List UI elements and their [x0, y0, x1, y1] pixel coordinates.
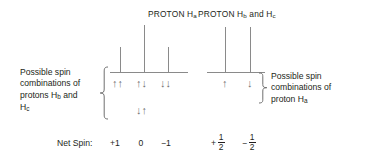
- right-caption-line-2: combinations of: [271, 82, 363, 93]
- left-caption-subscript-c: c: [26, 105, 29, 112]
- minus-half-sign: −: [242, 138, 247, 148]
- right-peak-right: [250, 27, 251, 72]
- minus-half-denominator: 2: [249, 143, 256, 152]
- left-caption-line-1: Possible spin: [20, 67, 98, 78]
- right-caption-subscript-a: a: [304, 97, 308, 104]
- net-spin-value-minus-one: −1: [155, 138, 177, 148]
- left-caption-line-4: Hc: [20, 102, 98, 114]
- plus-half-denominator: 2: [218, 143, 225, 152]
- left-arrows-up-down: ↑↓: [136, 77, 147, 89]
- left-peak-right: [168, 47, 169, 72]
- left-arrows-up-up: ↑↑: [112, 77, 123, 89]
- left-spin-combo-down-up: ↓↑: [136, 105, 147, 116]
- right-curly-brace: [258, 72, 268, 104]
- spin-splitting-diagram: PROTON Ha PROTON Hb and Hc Possible spin…: [0, 0, 366, 161]
- right-arrow-down: ↓: [247, 77, 253, 89]
- right-group-heading-subscript-c: c: [272, 12, 275, 19]
- left-curly-brace: [99, 66, 109, 120]
- right-spin-combo-up: ↑: [222, 78, 228, 89]
- plus-half-sign: +: [211, 138, 216, 148]
- right-caption-line-1: Possible spin: [271, 71, 363, 82]
- plus-half-numerator: 1: [218, 133, 225, 142]
- right-peak-left: [225, 27, 226, 72]
- right-arrow-up: ↑: [222, 77, 228, 89]
- net-spin-value-plus-one: +1: [104, 138, 126, 148]
- left-caption-line-3-tail: and: [61, 90, 78, 100]
- left-group-heading-subscript: a: [193, 12, 197, 19]
- left-caption-line-3: protons Hb and: [20, 90, 98, 102]
- right-multiplet-doublet: [207, 27, 267, 72]
- left-multiplet-triplet: [110, 22, 190, 72]
- right-caption: Possible spin combinations of proton Ha: [271, 71, 363, 106]
- left-peak-left: [120, 47, 121, 72]
- left-arrows-down-up: ↓↑: [136, 104, 147, 116]
- left-caption-line-3-text: protons H: [20, 90, 57, 100]
- left-spin-combo-up-up: ↑↑: [112, 78, 123, 89]
- left-arrows-down-down: ↓↓: [160, 77, 171, 89]
- minus-half-fraction: 1 2: [249, 133, 256, 152]
- left-group-heading-text: PROTON H: [148, 9, 193, 19]
- left-spin-combo-up-down: ↑↓: [136, 78, 147, 89]
- net-spin-value-zero: 0: [130, 138, 152, 148]
- right-group-heading-mid: and H: [247, 9, 273, 19]
- left-caption: Possible spin combinations of protons Hb…: [20, 67, 98, 115]
- net-spin-label: Net Spin:: [57, 138, 92, 148]
- right-multiplet-baseline: [207, 72, 265, 73]
- right-caption-line-3: proton Ha: [271, 94, 363, 106]
- minus-half-numerator: 1: [249, 133, 256, 142]
- left-spin-combo-down-down: ↓↓: [160, 78, 171, 89]
- left-group-heading: PROTON Ha: [148, 9, 197, 19]
- right-spin-combo-down: ↓: [247, 78, 253, 89]
- net-spin-value-minus-half: − 1 2: [242, 133, 256, 152]
- right-group-heading: PROTON Hb and Hc: [198, 9, 276, 19]
- right-group-heading-text: PROTON H: [198, 9, 243, 19]
- plus-half-fraction: 1 2: [218, 133, 225, 152]
- left-caption-line-2: combinations of: [20, 78, 98, 89]
- left-peak-center: [144, 25, 145, 72]
- right-caption-line-3-text: proton H: [271, 94, 304, 104]
- left-multiplet-baseline: [110, 72, 188, 73]
- net-spin-value-plus-half: + 1 2: [211, 133, 225, 152]
